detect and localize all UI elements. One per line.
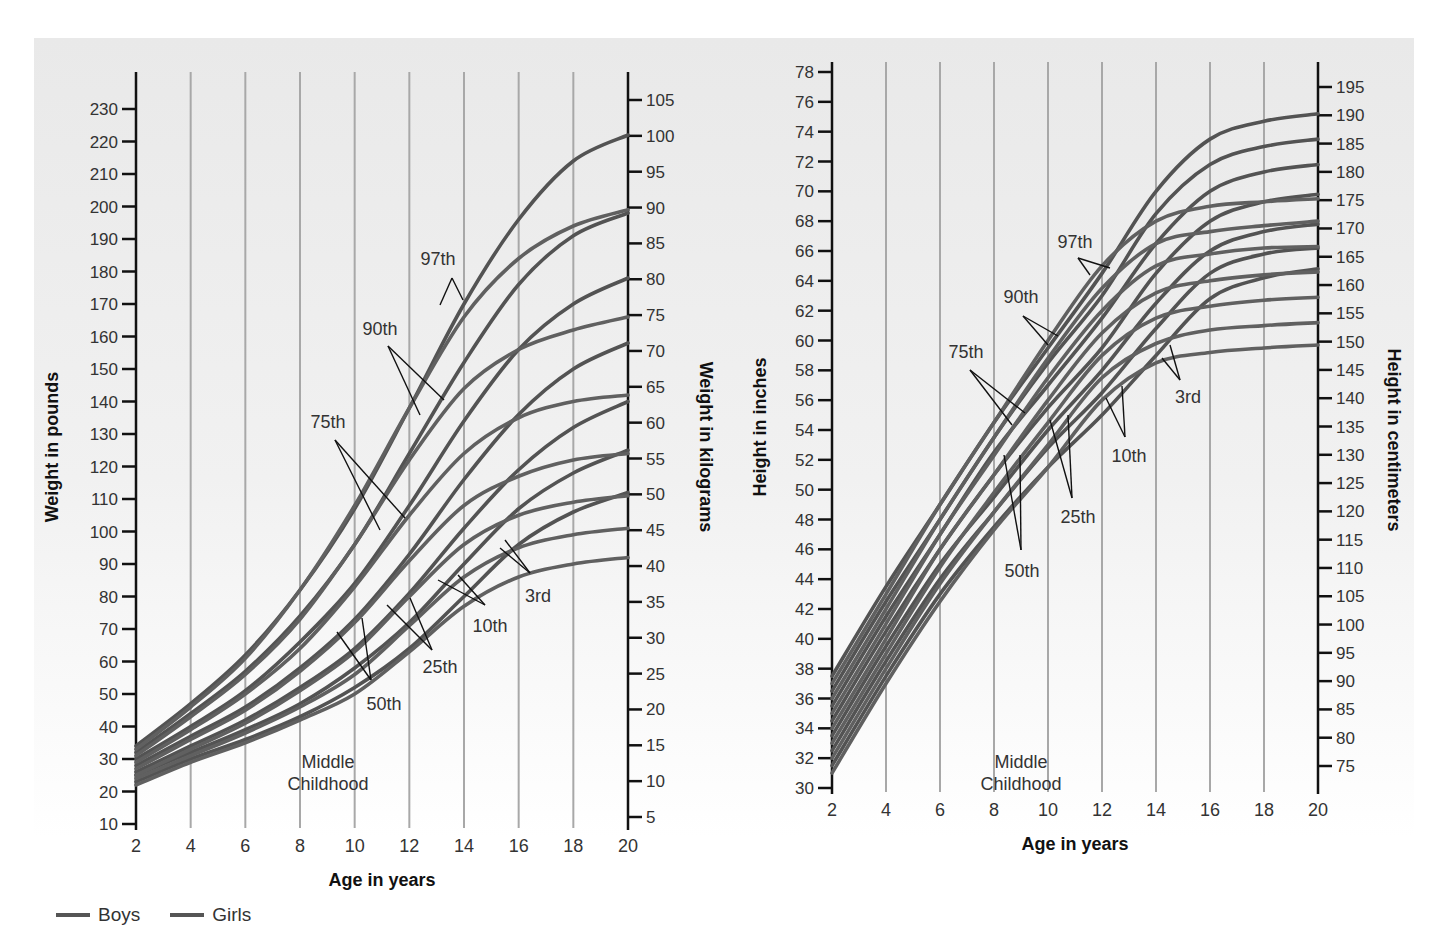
x-tick-label: 16 [509, 836, 529, 856]
y-axis-title: Height in inches [750, 357, 770, 496]
y-tick-label: 66 [795, 242, 814, 261]
y-tick-label: 40 [795, 630, 814, 649]
y2-tick-label: 100 [646, 127, 674, 146]
x-tick-label: 14 [1146, 800, 1166, 820]
legend-boys: Boys [56, 904, 140, 926]
y2-tick-label: 190 [1336, 106, 1364, 125]
y-tick-label: 30 [795, 779, 814, 798]
y-tick-label: 10 [99, 815, 118, 834]
y2-tick-label: 115 [1336, 531, 1363, 550]
y-tick-label: 190 [90, 230, 118, 249]
y-tick-label: 38 [795, 660, 814, 679]
y2-tick-label: 185 [1336, 135, 1364, 154]
y2-tick-label: 140 [1336, 389, 1364, 408]
y-tick-label: 150 [90, 360, 118, 379]
y2-tick-label: 25 [646, 665, 665, 684]
x-tick-label: 14 [454, 836, 474, 856]
x-tick-label: 20 [1308, 800, 1328, 820]
y-tick-label: 170 [90, 295, 118, 314]
y2-tick-label: 95 [646, 163, 665, 182]
percentile-label: 97th [420, 249, 455, 269]
x-axis-title: Age in years [1021, 834, 1128, 854]
y2-tick-label: 85 [646, 234, 665, 253]
percentile-label: 75th [310, 412, 345, 432]
x-tick-label: 20 [618, 836, 638, 856]
y2-tick-label: 30 [646, 629, 665, 648]
y-tick-label: 58 [795, 361, 814, 380]
y-tick-label: 34 [795, 719, 814, 738]
y-tick-label: 44 [795, 570, 814, 589]
legend-boys-label: Boys [98, 904, 140, 926]
y-tick-label: 180 [90, 263, 118, 282]
y2-tick-label: 170 [1336, 219, 1364, 238]
svg-text:Childhood: Childhood [980, 774, 1061, 794]
y2-tick-label: 80 [1336, 729, 1355, 748]
y2-tick-label: 155 [1336, 304, 1364, 323]
y2-tick-label: 195 [1336, 78, 1364, 97]
y-axis-title: Weight in pounds [42, 372, 62, 523]
percentile-label: 10th [472, 616, 507, 636]
x-tick-label: 8 [989, 800, 999, 820]
y2-tick-label: 65 [646, 378, 665, 397]
girls-line-swatch-icon [170, 913, 204, 917]
x-tick-label: 4 [186, 836, 196, 856]
y-tick-label: 20 [99, 783, 118, 802]
y-tick-label: 70 [795, 182, 814, 201]
y2-tick-label: 70 [646, 342, 665, 361]
y-tick-label: 110 [91, 490, 118, 509]
y2-tick-label: 90 [646, 199, 665, 218]
y2-tick-label: 160 [1336, 276, 1364, 295]
annotation-middle-childhood: Middle [994, 752, 1047, 772]
y2-axis-title: Weight in kilograms [696, 362, 716, 533]
y-tick-label: 210 [90, 165, 118, 184]
y-tick-label: 46 [795, 540, 814, 559]
x-tick-label: 10 [1038, 800, 1058, 820]
y2-tick-label: 165 [1336, 248, 1364, 267]
percentile-label: 3rd [1175, 387, 1201, 407]
y2-tick-label: 75 [1336, 757, 1355, 776]
x-tick-label: 12 [1092, 800, 1112, 820]
y2-tick-label: 175 [1336, 191, 1364, 210]
svg-text:Childhood: Childhood [287, 774, 368, 794]
percentile-label: 90th [1003, 287, 1038, 307]
percentile-label: 75th [948, 342, 983, 362]
y-tick-label: 72 [795, 153, 814, 172]
y-tick-label: 100 [90, 523, 118, 542]
x-tick-label: 6 [240, 836, 250, 856]
y-tick-label: 90 [99, 555, 118, 574]
y2-tick-label: 105 [646, 91, 674, 110]
annotation-middle-childhood: Middle [301, 752, 354, 772]
percentile-label: 25th [1060, 507, 1095, 527]
y2-tick-label: 130 [1336, 446, 1364, 465]
x-tick-label: 18 [563, 836, 583, 856]
legend-girls: Girls [170, 904, 251, 926]
y2-tick-label: 95 [1336, 644, 1355, 663]
x-tick-label: 16 [1200, 800, 1220, 820]
y2-tick-label: 75 [646, 306, 665, 325]
y2-tick-label: 60 [646, 414, 665, 433]
y-tick-label: 60 [795, 332, 814, 351]
percentile-label: 50th [366, 694, 401, 714]
y2-tick-label: 135 [1336, 418, 1364, 437]
boys-line-swatch-icon [56, 913, 90, 917]
x-tick-label: 18 [1254, 800, 1274, 820]
y2-tick-label: 110 [1336, 559, 1363, 578]
y2-tick-label: 15 [646, 736, 665, 755]
y-tick-label: 80 [99, 588, 118, 607]
y2-tick-label: 10 [646, 772, 665, 791]
y2-tick-label: 100 [1336, 616, 1364, 635]
y2-tick-label: 35 [646, 593, 665, 612]
percentile-label: 10th [1111, 446, 1146, 466]
y2-tick-label: 55 [646, 450, 665, 469]
y-tick-label: 52 [795, 451, 814, 470]
y-tick-label: 42 [795, 600, 814, 619]
y-tick-label: 78 [795, 63, 814, 82]
percentile-label: 90th [362, 319, 397, 339]
y-tick-label: 50 [795, 481, 814, 500]
legend: Boys Girls [56, 904, 251, 926]
y-tick-label: 30 [99, 750, 118, 769]
y-tick-label: 76 [795, 93, 814, 112]
x-tick-label: 8 [295, 836, 305, 856]
y-tick-label: 200 [90, 198, 118, 217]
y-tick-label: 36 [795, 690, 814, 709]
